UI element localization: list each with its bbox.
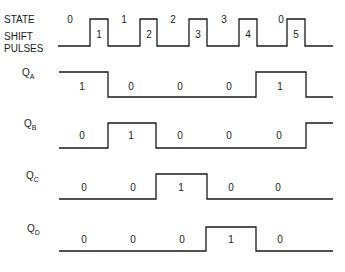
state-1: 1 (121, 14, 127, 25)
pulse-number-2: 2 (146, 29, 152, 40)
qc-value-0: 0 (81, 182, 87, 193)
pulse-number-4: 4 (245, 29, 251, 40)
shift-label-line1: SHIFT (4, 31, 33, 42)
qc-waveform (59, 174, 333, 199)
shift-label-line2: PULSES (4, 43, 44, 54)
qd-waveform (59, 227, 333, 251)
timing-diagram: STATE SHIFT PULSES 0 1 2 3 0 1 2 3 4 5 Q… (0, 0, 345, 272)
qa-waveform (59, 72, 333, 97)
qd-value-2: 0 (179, 234, 185, 245)
qb-value-2: 0 (177, 130, 183, 141)
signal-label-qd: QD (27, 223, 40, 236)
state-4: 0 (278, 14, 284, 25)
qb-waveform (59, 123, 333, 148)
qa-value-3: 0 (226, 81, 232, 92)
qb-value-1: 1 (128, 130, 134, 141)
signal-label-qb: QB (24, 118, 37, 131)
qd-value-3: 1 (228, 234, 234, 245)
qd-value-1: 0 (130, 234, 136, 245)
qa-value-0: 1 (79, 81, 85, 92)
signal-label-qc: QC (26, 170, 39, 183)
qa-value-1: 0 (128, 81, 134, 92)
qd-value-0: 0 (81, 234, 87, 245)
qc-value-2: 1 (178, 182, 184, 193)
qb-value-3: 0 (226, 130, 232, 141)
pulse-number-3: 3 (195, 29, 201, 40)
state-label: STATE (4, 14, 35, 25)
qd-value-4: 0 (277, 234, 283, 245)
state-2: 2 (170, 14, 176, 25)
pulse-number-5: 5 (293, 29, 299, 40)
qb-value-4: 0 (276, 130, 282, 141)
qc-value-4: 0 (275, 182, 281, 193)
qc-value-3: 0 (228, 182, 234, 193)
qb-value-0: 0 (79, 130, 85, 141)
pulse-number-1: 1 (96, 29, 102, 40)
signal-label-qa: QA (22, 67, 35, 80)
qa-value-2: 0 (177, 81, 183, 92)
state-0: 0 (67, 14, 73, 25)
qc-value-1: 0 (130, 182, 136, 193)
state-3: 3 (221, 14, 227, 25)
qa-value-4: 1 (277, 81, 283, 92)
